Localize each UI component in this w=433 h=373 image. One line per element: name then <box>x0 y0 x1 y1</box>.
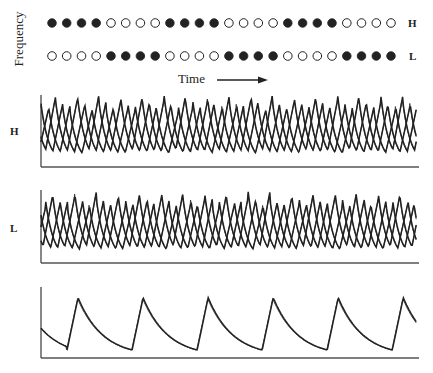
active-circle <box>136 52 145 61</box>
active-circle <box>210 19 219 28</box>
inactive-circle <box>136 19 145 28</box>
active-circle <box>254 52 263 61</box>
active-circle <box>107 52 116 61</box>
trace-panel-label-l: L <box>10 222 17 234</box>
active-circle <box>195 19 204 28</box>
raster-row-label-l: L <box>409 50 416 62</box>
active-circle <box>166 19 175 28</box>
trace-line <box>41 299 416 350</box>
active-circle <box>48 19 57 28</box>
inactive-circle <box>92 52 101 61</box>
inactive-circle <box>210 52 219 61</box>
active-circle <box>357 52 366 61</box>
active-circle <box>121 52 130 61</box>
inactive-circle <box>254 19 263 28</box>
inactive-circle <box>121 19 130 28</box>
inactive-circle <box>239 19 248 28</box>
inactive-circle <box>48 52 57 61</box>
inactive-circle <box>372 19 381 28</box>
raster-plot <box>48 19 396 61</box>
inactive-circle <box>343 19 352 28</box>
active-circle <box>269 52 278 61</box>
inactive-circle <box>387 19 396 28</box>
active-circle <box>180 19 189 28</box>
active-circle <box>387 52 396 61</box>
active-circle <box>372 52 381 61</box>
trace-panel <box>41 190 419 263</box>
inactive-circle <box>284 52 293 61</box>
active-circle <box>225 52 234 61</box>
inactive-circle <box>328 52 337 61</box>
active-circle <box>239 52 248 61</box>
active-circle <box>151 52 160 61</box>
active-circle <box>284 19 293 28</box>
inactive-circle <box>357 19 366 28</box>
active-circle <box>328 19 337 28</box>
figure: Frequency H L Time H L <box>0 0 433 373</box>
active-circle <box>343 52 352 61</box>
inactive-circle <box>77 52 86 61</box>
trace-panel-label-h: H <box>10 125 19 137</box>
inactive-circle <box>195 52 204 61</box>
inactive-circle <box>107 19 116 28</box>
inactive-circle <box>298 52 307 61</box>
active-circle <box>92 19 101 28</box>
trace-panel <box>41 287 419 358</box>
trace-panel <box>41 95 419 167</box>
trace-line <box>41 298 416 350</box>
inactive-circle <box>225 19 234 28</box>
inactive-circle <box>313 52 322 61</box>
active-circle <box>313 19 322 28</box>
active-circle <box>62 19 71 28</box>
time-arrow-icon <box>217 77 268 84</box>
active-circle <box>77 19 86 28</box>
inactive-circle <box>180 52 189 61</box>
inactive-circle <box>269 19 278 28</box>
time-axis-label: Time <box>178 71 205 86</box>
inactive-circle <box>151 19 160 28</box>
inactive-circle <box>166 52 175 61</box>
frequency-axis-label: Frequency <box>11 11 26 66</box>
active-circle <box>298 19 307 28</box>
inactive-circle <box>62 52 71 61</box>
raster-row-label-h: H <box>408 17 417 29</box>
